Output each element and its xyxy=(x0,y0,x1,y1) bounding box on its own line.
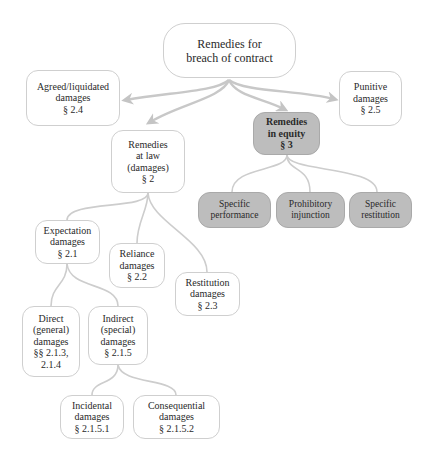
node-label: Prohibitory xyxy=(289,199,332,210)
node-label: Remedies for xyxy=(197,37,261,51)
line-law-to-expectation xyxy=(67,193,148,220)
node-label: Indirect xyxy=(102,313,133,325)
node-section: 2.1.4 xyxy=(41,359,61,371)
node-label: injunction xyxy=(291,210,330,221)
node-restitution-damages: Restitution damages § 2.3 xyxy=(175,272,240,316)
node-label: Punitive xyxy=(354,81,387,93)
node-section: § 3 xyxy=(280,139,293,151)
line-expectation-to-direct xyxy=(51,264,67,306)
node-consequential-damages: Consequential damages § 2.1.5.2 xyxy=(133,395,220,439)
node-label: Consequential xyxy=(148,400,205,412)
node-reliance-damages: Reliance damages § 2.2 xyxy=(109,243,165,288)
node-label: Remedies xyxy=(128,139,167,151)
node-label: damages xyxy=(120,260,155,272)
line-equity-to-specific-performance xyxy=(232,155,287,192)
node-section: § 2.4 xyxy=(63,104,83,116)
node-label: damages xyxy=(159,411,194,423)
node-label: at law xyxy=(136,150,160,162)
node-section: § 2.1.5.2 xyxy=(159,423,194,435)
node-section: § 2.1.5 xyxy=(104,347,132,359)
node-specific-restitution: Specific restitution xyxy=(349,192,412,228)
node-incidental-damages: Incidental damages § 2.1.5.1 xyxy=(60,395,124,439)
node-section: § 2.1 xyxy=(58,248,78,260)
line-indirect-to-consequential xyxy=(118,365,176,395)
node-section: §§ 2.1.3, xyxy=(34,347,69,359)
node-section: § 2.3 xyxy=(198,300,218,312)
node-section: § 2.5 xyxy=(361,104,381,116)
node-specific-performance: Specific performance xyxy=(198,192,271,228)
node-expectation-damages: Expectation damages § 2.1 xyxy=(35,220,100,264)
node-label: breach of contract xyxy=(186,51,273,65)
line-equity-to-specific-restitution xyxy=(287,155,377,192)
node-label: damages xyxy=(50,236,85,248)
node-prohibitory-injunction: Prohibitory injunction xyxy=(276,192,345,228)
node-label: Restitution xyxy=(186,277,230,289)
node-label: (special) xyxy=(101,324,135,336)
node-label: damages xyxy=(56,92,91,104)
node-label: Incidental xyxy=(72,400,112,412)
node-punitive-damages: Punitive damages § 2.5 xyxy=(339,71,402,126)
node-label: Expectation xyxy=(44,225,92,237)
node-section: § 2 xyxy=(142,173,155,185)
node-remedies-in-equity: Remedies in equity § 3 xyxy=(253,112,320,155)
node-agreed-liquidated-damages: Agreed/liquidated damages § 2.4 xyxy=(26,70,120,126)
node-label: Reliance xyxy=(120,248,155,260)
node-label: damages xyxy=(190,288,225,300)
node-label: damages xyxy=(353,93,388,105)
node-label: damages xyxy=(75,411,110,423)
node-remedies-for-breach: Remedies for breach of contract xyxy=(163,23,296,78)
node-label: in equity xyxy=(268,128,306,140)
node-remedies-at-law: Remedies at law (damages) § 2 xyxy=(111,130,185,193)
node-label: Agreed/liquidated xyxy=(37,81,109,93)
node-label: (general) xyxy=(33,324,69,336)
node-label: (damages) xyxy=(127,162,169,174)
node-label: Specific xyxy=(365,199,396,210)
node-label: restitution xyxy=(361,210,400,221)
node-direct-general-damages: Direct (general) damages §§ 2.1.3, 2.1.4 xyxy=(22,306,80,377)
node-label: Specific xyxy=(219,199,250,210)
line-indirect-to-incidental xyxy=(92,365,118,395)
node-label: performance xyxy=(211,210,259,221)
arrow-root-to-agreed xyxy=(126,80,229,100)
node-section: § 2.1.5.1 xyxy=(75,423,110,435)
node-indirect-special-damages: Indirect (special) damages § 2.1.5 xyxy=(88,306,148,365)
node-label: damages xyxy=(101,336,136,348)
node-section: § 2.2 xyxy=(127,271,147,283)
node-label: damages xyxy=(34,336,69,348)
arrow-root-to-punitive xyxy=(229,80,334,99)
node-label: Direct xyxy=(39,313,64,325)
node-label: Remedies xyxy=(266,116,307,128)
